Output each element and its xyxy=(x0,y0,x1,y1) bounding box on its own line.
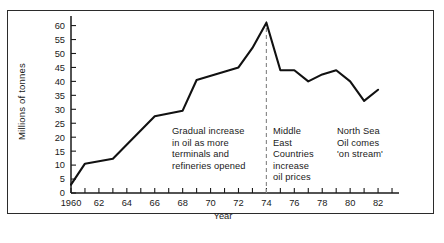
svg-text:74: 74 xyxy=(261,198,271,208)
svg-text:50: 50 xyxy=(55,49,65,59)
svg-text:55: 55 xyxy=(55,35,65,45)
annotation-north-sea: North Sea Oil comes 'on stream' xyxy=(337,126,383,161)
svg-text:66: 66 xyxy=(150,198,160,208)
svg-text:25: 25 xyxy=(55,119,65,129)
svg-text:80: 80 xyxy=(345,198,355,208)
svg-text:72: 72 xyxy=(233,198,243,208)
plot-area: 051015202530354045505560 196062646668707… xyxy=(0,0,444,243)
svg-text:1960: 1960 xyxy=(61,198,82,208)
x-axis-title: Year xyxy=(214,211,233,221)
chart-figure: Millions of tonnes 051015202530354045505… xyxy=(0,0,444,243)
svg-text:20: 20 xyxy=(55,133,65,143)
svg-text:35: 35 xyxy=(55,91,65,101)
x-axis-ticks: 19606264666870727476788082 xyxy=(61,188,392,208)
svg-text:0: 0 xyxy=(60,188,65,198)
svg-text:70: 70 xyxy=(205,198,215,208)
svg-text:78: 78 xyxy=(317,198,327,208)
svg-text:40: 40 xyxy=(55,77,65,87)
svg-text:82: 82 xyxy=(373,198,383,208)
annotation-gradual-increase: Gradual increase in oil as more terminal… xyxy=(172,126,246,172)
svg-text:15: 15 xyxy=(55,147,65,157)
svg-text:68: 68 xyxy=(177,198,187,208)
svg-text:45: 45 xyxy=(55,63,65,73)
svg-text:76: 76 xyxy=(289,198,299,208)
svg-text:10: 10 xyxy=(55,160,65,170)
svg-text:30: 30 xyxy=(55,105,65,115)
line-chart-svg: 051015202530354045505560 196062646668707… xyxy=(0,0,444,243)
y-axis-ticks: 051015202530354045505560 xyxy=(55,21,76,198)
svg-text:62: 62 xyxy=(94,198,104,208)
svg-text:60: 60 xyxy=(55,21,65,31)
annotation-middle-east: Middle East Countries increase oil price… xyxy=(273,126,314,184)
svg-text:64: 64 xyxy=(122,198,132,208)
svg-text:5: 5 xyxy=(60,174,65,184)
